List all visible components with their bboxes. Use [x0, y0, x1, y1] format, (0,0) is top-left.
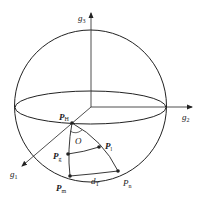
angle-arc [70, 130, 82, 133]
label-Pg: Pg [53, 151, 62, 162]
label-Pn: Pn [122, 178, 132, 189]
point-Pm [68, 174, 72, 178]
sphere-outline [15, 30, 167, 182]
point-Pn [116, 169, 120, 173]
point-PH [70, 121, 74, 125]
label-Pl: Pl [105, 141, 113, 152]
label-PH: PH [59, 112, 70, 122]
point-Pl [97, 145, 101, 149]
center-label: O [75, 136, 82, 146]
sphere-diagram: g3 g2 g1 O PH Pl Pg Pm Pn dT [0, 0, 199, 200]
g1-label: g1 [10, 169, 18, 180]
point-Pg [66, 152, 70, 156]
arc-Pg-Pl [68, 147, 99, 154]
label-Pm: Pm [56, 183, 67, 194]
g3-label: g3 [78, 13, 86, 24]
distance-label: dT [91, 176, 100, 187]
g2-label: g2 [182, 112, 190, 123]
